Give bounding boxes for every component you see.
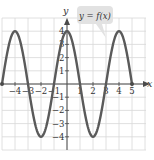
function-label: y = f(x) [78, 11, 111, 21]
endpoint-dot [130, 82, 134, 86]
x-axis-label: x [147, 78, 153, 89]
function-graph: x y −4−3−2−1123454321−1−2−3−4 y = f(x) [0, 0, 154, 160]
y-tick-label: 1 [59, 66, 64, 76]
y-axis-arrow-icon [64, 18, 70, 25]
function-callout: y = f(x) [77, 6, 113, 38]
x-tick-label: 4 [116, 86, 121, 96]
x-tick-label: 2 [90, 86, 95, 96]
y-tick-label: −4 [52, 132, 65, 142]
endpoint-dot [0, 82, 4, 86]
y-tick-label: −3 [52, 119, 65, 129]
x-tick-label: −4 [9, 86, 22, 96]
x-tick-label: 5 [129, 86, 134, 96]
y-tick-label: −2 [52, 105, 65, 115]
x-tick-label: −2 [35, 86, 48, 96]
y-tick-label: −1 [52, 92, 65, 102]
y-axis-label: y [62, 5, 69, 16]
